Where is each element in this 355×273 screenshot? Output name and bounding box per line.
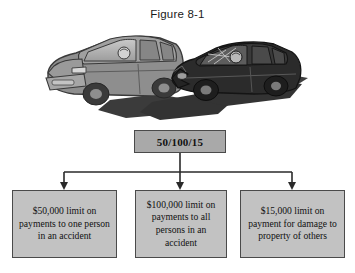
- tree-connector: [0, 150, 355, 195]
- dark-sedan: [172, 42, 301, 101]
- leaf-label-2: $15,000 limit on payment for damage to p…: [244, 205, 341, 243]
- leaf-label-1: $100,000 limit on payments to all person…: [139, 199, 223, 249]
- leaf-node-bodily-injury-per-accident: $100,000 limit on payments to all person…: [135, 190, 227, 258]
- figure-container: Figure 8-1: [0, 0, 355, 273]
- leaf-node-bodily-injury-per-person: $50,000 limit on payments to one person …: [12, 190, 117, 258]
- leaf-node-property-damage: $15,000 limit on payment for damage to p…: [240, 190, 345, 258]
- gray-minivan: [46, 36, 183, 105]
- figure-title: Figure 8-1: [0, 8, 355, 20]
- two-car-collision-illustration: [40, 28, 320, 123]
- arrowhead-group: [60, 182, 296, 190]
- leaf-label-0: $50,000 limit on payments to one person …: [16, 205, 113, 243]
